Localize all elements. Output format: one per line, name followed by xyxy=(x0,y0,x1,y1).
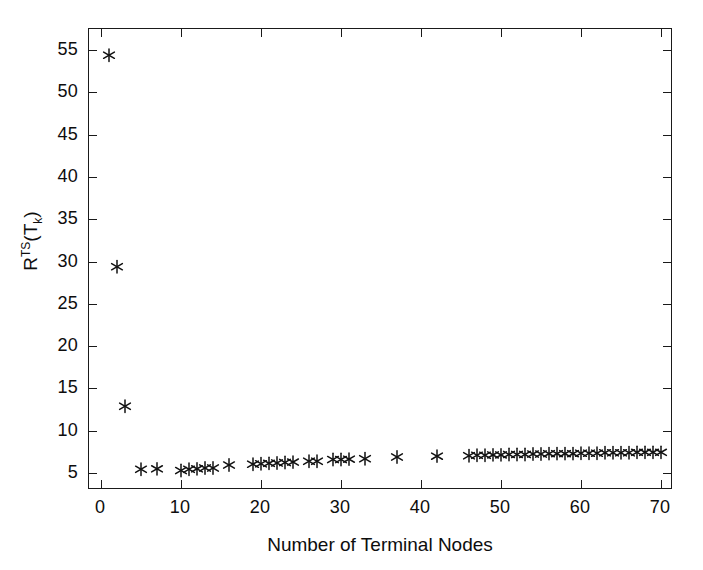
y-axis-label-open: (T xyxy=(20,224,41,242)
data-point-marker xyxy=(512,448,523,460)
y-axis-tick xyxy=(663,388,671,389)
x-axis-tick xyxy=(501,480,502,488)
data-point-marker xyxy=(592,447,603,459)
x-axis-tick xyxy=(581,480,582,488)
x-axis-tick xyxy=(581,29,582,37)
y-axis-label-base: R xyxy=(20,257,41,271)
y-axis-tick xyxy=(663,304,671,305)
x-axis-tick xyxy=(421,29,422,37)
data-point-marker xyxy=(192,463,203,475)
x-tick-label: 40 xyxy=(410,497,430,518)
data-point-marker xyxy=(344,453,355,465)
x-axis-tick xyxy=(261,29,262,37)
y-axis-tick xyxy=(663,346,671,347)
x-axis-tick xyxy=(101,29,102,37)
x-tick-label: 50 xyxy=(490,497,510,518)
data-point-marker xyxy=(432,450,443,462)
x-axis-tick xyxy=(101,480,102,488)
y-axis-tick xyxy=(663,135,671,136)
data-point-marker xyxy=(544,447,555,459)
x-axis-tick xyxy=(661,480,662,488)
data-point-marker xyxy=(312,455,323,467)
x-tick-label: 10 xyxy=(170,497,190,518)
x-axis-tick xyxy=(181,29,182,37)
x-axis-tick xyxy=(661,29,662,37)
data-point-marker xyxy=(576,447,587,459)
data-point-marker xyxy=(600,447,611,459)
data-point-marker xyxy=(288,456,299,468)
data-point-marker xyxy=(336,453,347,465)
y-axis-tick xyxy=(663,50,671,51)
data-series-layer xyxy=(89,29,671,488)
x-tick-label: 30 xyxy=(330,497,350,518)
data-point-marker xyxy=(360,453,371,465)
data-point-marker xyxy=(264,457,275,469)
data-point-marker xyxy=(520,448,531,460)
y-axis-tick xyxy=(663,262,671,263)
y-axis-tick xyxy=(89,262,97,263)
data-point-marker xyxy=(464,450,475,462)
data-point-marker xyxy=(632,446,643,458)
y-axis-tick xyxy=(89,92,97,93)
x-tick-label: 60 xyxy=(570,497,590,518)
data-point-marker xyxy=(536,448,547,460)
data-point-marker xyxy=(528,448,539,460)
plot-axes xyxy=(88,28,672,489)
data-point-marker xyxy=(648,446,659,458)
y-axis-tick xyxy=(89,177,97,178)
x-tick-label: 0 xyxy=(95,497,105,518)
y-axis-label-superscript: TS xyxy=(19,242,33,257)
y-tick-label: 5 xyxy=(32,462,78,483)
data-point-marker xyxy=(640,446,651,458)
x-axis-tick xyxy=(341,29,342,37)
scatter-markers xyxy=(89,29,673,490)
data-point-marker xyxy=(280,456,291,468)
figure-canvas: 010203040506070 510152025303540455055 Nu… xyxy=(0,0,703,570)
y-axis-tick xyxy=(89,473,97,474)
data-point-marker xyxy=(624,447,635,459)
data-point-marker xyxy=(328,453,339,465)
y-axis-tick xyxy=(89,388,97,389)
y-axis-tick xyxy=(89,135,97,136)
x-axis-label: Number of Terminal Nodes xyxy=(88,534,672,556)
data-point-marker xyxy=(472,449,483,461)
data-point-marker xyxy=(552,447,563,459)
y-axis-tick xyxy=(663,473,671,474)
data-point-marker xyxy=(272,457,283,469)
data-point-marker xyxy=(504,448,515,460)
data-point-marker xyxy=(616,447,627,459)
data-point-marker xyxy=(152,463,163,475)
data-point-marker xyxy=(208,462,219,474)
data-point-marker xyxy=(112,260,123,272)
y-axis-tick xyxy=(663,431,671,432)
data-point-marker xyxy=(496,449,507,461)
data-point-marker xyxy=(136,463,147,475)
data-point-marker xyxy=(200,462,211,474)
data-point-marker xyxy=(560,447,571,459)
data-point-marker xyxy=(304,455,315,467)
x-axis-tick xyxy=(261,480,262,488)
y-axis-tick xyxy=(89,346,97,347)
y-axis-label-subscript: k xyxy=(31,218,45,224)
data-point-marker xyxy=(392,451,403,463)
y-tick-label: 55 xyxy=(32,39,78,60)
data-point-marker xyxy=(120,400,131,412)
data-point-marker xyxy=(480,449,491,461)
x-axis-tick xyxy=(341,480,342,488)
y-axis-tick xyxy=(89,304,97,305)
y-axis-tick xyxy=(89,431,97,432)
y-axis-tick xyxy=(663,219,671,220)
data-point-marker xyxy=(584,447,595,459)
y-axis-label: RTS(Tk) xyxy=(19,141,45,341)
data-point-marker xyxy=(568,447,579,459)
y-tick-label: 15 xyxy=(32,377,78,398)
x-tick-label: 20 xyxy=(250,497,270,518)
x-axis-tick xyxy=(501,29,502,37)
y-axis-tick xyxy=(663,177,671,178)
y-axis-tick xyxy=(663,92,671,93)
y-axis-label-close: ) xyxy=(20,211,41,217)
data-point-marker xyxy=(608,447,619,459)
data-point-marker xyxy=(104,49,115,61)
y-tick-label: 10 xyxy=(32,419,78,440)
y-axis-tick xyxy=(89,50,97,51)
